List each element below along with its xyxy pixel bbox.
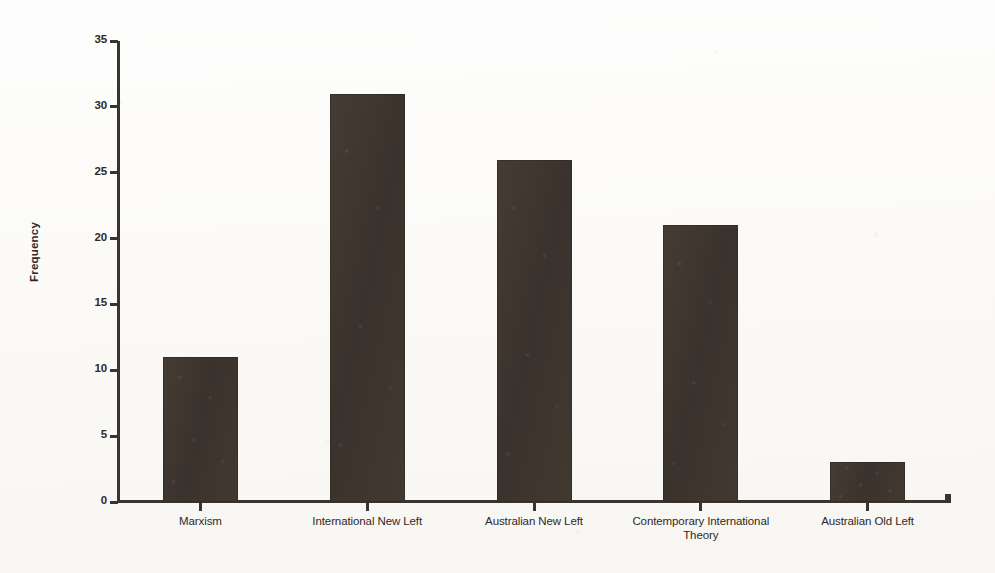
category-label: International New Left <box>284 514 451 528</box>
y-tick-label: 5 <box>67 428 107 440</box>
x-tick-mark <box>533 503 536 511</box>
category-label: Contemporary International Theory <box>617 514 784 542</box>
y-tick-mark <box>110 105 118 108</box>
y-tick-mark <box>110 237 118 240</box>
bar-chart: Frequency 05101520253035 MarxismInternat… <box>0 0 995 573</box>
y-tick-label: 30 <box>67 99 107 111</box>
category-label: Marxism <box>117 514 284 528</box>
y-tick-label: 10 <box>67 362 107 374</box>
y-tick-label: 25 <box>67 165 107 177</box>
bar-australian-new-left <box>497 160 572 502</box>
y-tick-label: 20 <box>67 231 107 243</box>
y-tick-mark <box>110 303 118 306</box>
category-label: Australian Old Left <box>784 514 951 528</box>
bar-marxism <box>163 357 238 502</box>
bar-contemporary-international-theory <box>663 225 738 502</box>
y-tick-label: 0 <box>67 494 107 506</box>
bar-international-new-left <box>330 94 405 502</box>
y-tick-label: 15 <box>67 296 107 308</box>
category-label: Australian New Left <box>451 514 618 528</box>
y-tick-label: 35 <box>67 33 107 45</box>
x-tick-mark <box>699 503 702 511</box>
x-tick-mark <box>366 503 369 511</box>
y-tick-mark <box>110 369 118 372</box>
x-tick-mark <box>199 503 202 511</box>
y-tick-mark <box>110 435 118 438</box>
y-tick-mark <box>110 171 118 174</box>
x-tick-mark <box>866 503 869 511</box>
y-axis-title: Frequency <box>28 192 40 312</box>
bar-australian-old-left <box>830 462 905 502</box>
x-axis-end-cap <box>945 494 951 503</box>
y-tick-mark <box>110 501 118 504</box>
y-tick-mark <box>110 40 118 43</box>
